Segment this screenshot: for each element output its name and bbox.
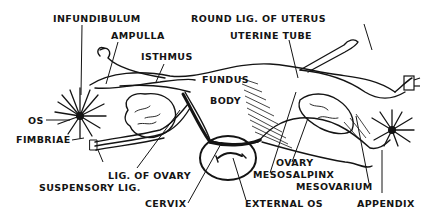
label-fundus: FUNDUS — [202, 75, 249, 85]
label-infundibulum: INFUNDIBULUM — [53, 14, 141, 24]
label-fimbriae: FIMBRIAE — [16, 135, 71, 145]
label-body: BODY — [210, 96, 241, 106]
label-external-os: EXTERNAL OS — [245, 199, 323, 209]
label-ovary: OVARY — [276, 158, 314, 168]
label-ampulla: AMPULLA — [111, 31, 165, 41]
label-round-lig-of-uterus: ROUND LIG. OF UTERUS — [191, 14, 326, 24]
label-mesosalpinx: MESOSALPINX — [253, 170, 334, 180]
label-appendix: APPENDIX — [357, 199, 415, 209]
label-isthmus: ISTHMUS — [141, 52, 193, 62]
label-cervix: CERVIX — [145, 199, 186, 209]
reproductive-anatomy-diagram: INFUNDIBULUM AMPULLA ISTHMUS ROUND LIG. … — [0, 0, 433, 222]
label-suspensory-lig: SUSPENSORY LIG. — [39, 183, 141, 193]
label-os: OS — [28, 116, 44, 126]
label-mesovarium: MESOVARIUM — [296, 182, 373, 192]
label-uterine-tube: UTERINE TUBE — [230, 31, 312, 41]
label-lig-of-ovary: LIG. OF OVARY — [108, 171, 191, 181]
